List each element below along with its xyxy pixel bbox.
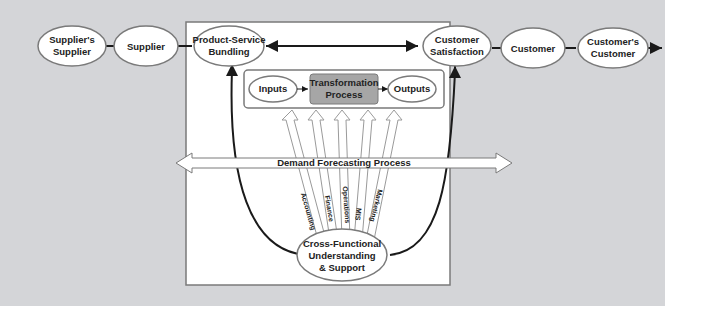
- svg-text:Process: Process: [326, 89, 363, 100]
- svg-text:Customer's: Customer's: [587, 36, 639, 47]
- supply-chain-diagram: Demand Forecasting Process Accounting Fi…: [0, 0, 703, 318]
- svg-text:Satisfaction: Satisfaction: [430, 46, 484, 57]
- function-label-mis: MIS: [354, 208, 362, 221]
- svg-text:Transformation: Transformation: [309, 77, 378, 88]
- node-customer: Customer: [501, 28, 565, 68]
- svg-text:Product-Service: Product-Service: [193, 34, 266, 45]
- node-outputs: Outputs: [388, 76, 436, 102]
- demand-forecasting-label: Demand Forecasting Process: [277, 157, 411, 168]
- svg-text:Cross-Functional: Cross-Functional: [303, 238, 381, 249]
- node-product-service-bundling: Product-Service Bundling: [193, 26, 266, 66]
- svg-text:& Support: & Support: [319, 262, 366, 273]
- node-supplier: Supplier: [114, 26, 178, 66]
- svg-text:Outputs: Outputs: [394, 83, 430, 94]
- svg-text:Inputs: Inputs: [259, 83, 288, 94]
- svg-text:Customer: Customer: [511, 43, 556, 54]
- node-suppliers-supplier: Supplier's Supplier: [38, 26, 106, 66]
- svg-text:Understanding: Understanding: [308, 250, 375, 261]
- svg-text:Bundling: Bundling: [208, 46, 249, 57]
- node-cross-functional-support: Cross-Functional Understanding & Support: [297, 229, 387, 281]
- node-transformation-process: Transformation Process: [309, 74, 378, 104]
- svg-text:Customer: Customer: [435, 34, 480, 45]
- svg-text:Supplier: Supplier: [127, 41, 165, 52]
- svg-text:Supplier: Supplier: [53, 46, 91, 57]
- node-customer-satisfaction: Customer Satisfaction: [423, 26, 491, 66]
- node-customers-customer: Customer's Customer: [578, 28, 648, 68]
- svg-text:Customer: Customer: [591, 48, 636, 59]
- node-inputs: Inputs: [249, 76, 297, 102]
- svg-text:Supplier's: Supplier's: [49, 34, 95, 45]
